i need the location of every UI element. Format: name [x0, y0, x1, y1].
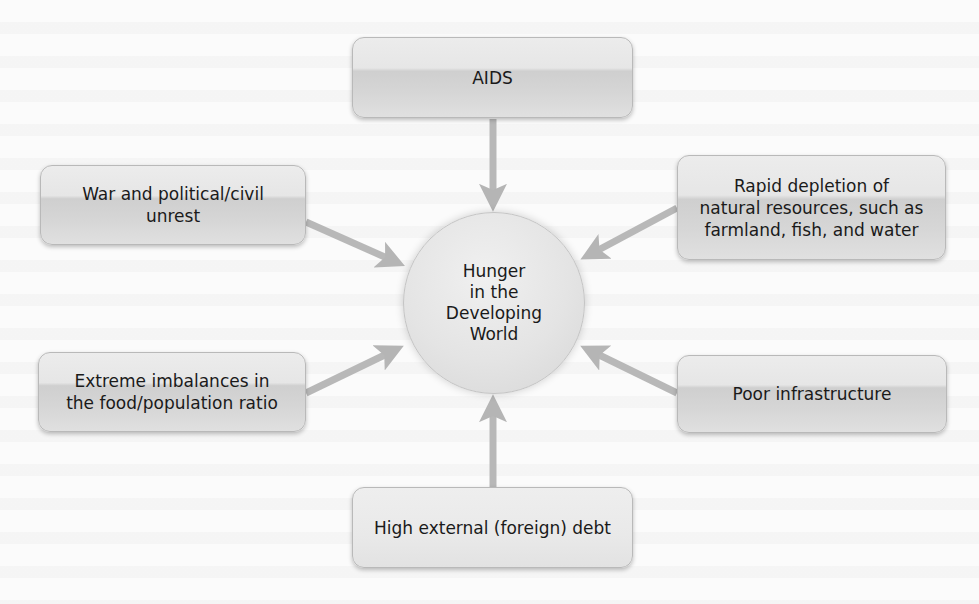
cause-box-imbalance: Extreme imbalances in the food/populatio… — [38, 352, 306, 432]
arrow-war — [306, 222, 396, 262]
cause-box-war: War and political/civil unrest — [40, 165, 306, 245]
cause-box-infrastructure: Poor infrastructure — [677, 355, 947, 433]
arrow-imbalance — [306, 350, 395, 393]
cause-label-aids: AIDS — [472, 67, 513, 89]
arrow-infrastructure — [589, 350, 677, 393]
cause-label-war: War and political/civil unrest — [82, 183, 264, 227]
cause-box-depletion: Rapid depletion of natural resources, su… — [677, 155, 946, 260]
cause-label-depletion: Rapid depletion of natural resources, su… — [700, 175, 924, 241]
cause-box-debt: High external (foreign) debt — [352, 487, 633, 568]
center-hub-label: Hunger in the Developing World — [446, 261, 542, 345]
cause-label-infrastructure: Poor infrastructure — [733, 383, 892, 405]
cause-box-aids: AIDS — [352, 37, 633, 118]
cause-label-debt: High external (foreign) debt — [374, 517, 611, 539]
arrow-depletion — [589, 208, 677, 255]
cause-label-imbalance: Extreme imbalances in the food/populatio… — [66, 370, 278, 414]
center-hub-circle: Hunger in the Developing World — [403, 212, 585, 394]
